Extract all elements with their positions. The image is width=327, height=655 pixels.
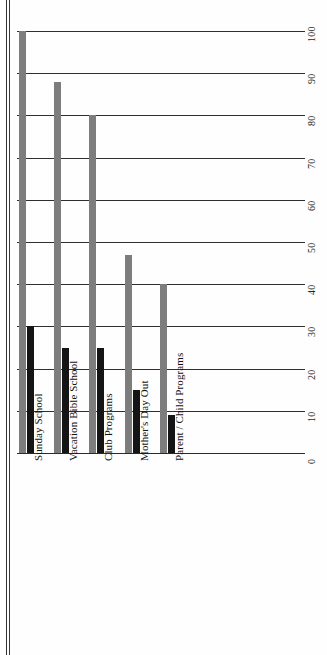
chart-page: 0102030405060708090100 Sunday SchoolVaca… bbox=[0, 0, 327, 655]
gridline-0 bbox=[17, 453, 305, 454]
tick-label-70: 70 bbox=[306, 147, 317, 169]
bar bbox=[19, 31, 26, 453]
category-label: Mother's Day Out bbox=[138, 380, 150, 461]
category-label: Parent / Child Programs bbox=[173, 353, 185, 461]
tick-label-90: 90 bbox=[306, 62, 317, 84]
tick-label-60: 60 bbox=[306, 189, 317, 211]
bar bbox=[54, 82, 61, 453]
tick-label-50: 50 bbox=[306, 231, 317, 253]
bar-chart: 0102030405060708090100 Sunday SchoolVaca… bbox=[0, 0, 327, 655]
bar bbox=[160, 284, 167, 453]
tick-label-100: 100 bbox=[306, 20, 317, 42]
bar-group bbox=[19, 31, 34, 453]
category-label: Vacation Bible School bbox=[67, 361, 79, 461]
tick-label-20: 20 bbox=[306, 358, 317, 380]
tick-label-10: 10 bbox=[306, 400, 317, 422]
tick-label-0: 0 bbox=[306, 442, 317, 464]
category-label: Sunday School bbox=[32, 393, 44, 461]
category-label: Club Programs bbox=[102, 393, 114, 461]
tick-label-30: 30 bbox=[306, 315, 317, 337]
tick-label-80: 80 bbox=[306, 104, 317, 126]
bar bbox=[89, 115, 96, 453]
bar bbox=[125, 255, 132, 453]
bar-group bbox=[89, 31, 104, 453]
tick-label-40: 40 bbox=[306, 273, 317, 295]
